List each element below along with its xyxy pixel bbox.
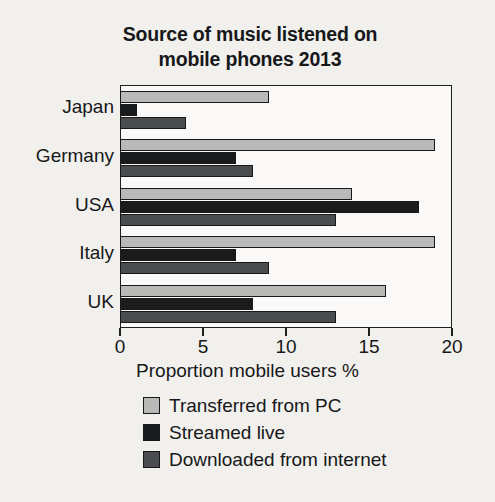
- chart-title: Source of music listened on mobile phone…: [60, 22, 440, 72]
- bar: [120, 139, 435, 151]
- axis-tick-label: 0: [115, 336, 126, 358]
- bar: [120, 236, 435, 248]
- category-label: Italy: [79, 242, 114, 264]
- category-label: USA: [75, 194, 114, 216]
- axis-tick: [119, 328, 121, 336]
- legend-item[interactable]: Downloaded from internet: [143, 446, 463, 473]
- legend-swatch-icon: [143, 424, 160, 441]
- axis-tick: [285, 328, 287, 336]
- category-label: UK: [88, 291, 114, 313]
- chart-title-line-1: Source of music listened on: [60, 22, 440, 47]
- bar: [120, 249, 236, 261]
- axis-tick: [368, 328, 370, 336]
- bar: [120, 165, 253, 177]
- x-axis-label: Proportion mobile users %: [0, 360, 495, 382]
- category-label: Japan: [62, 96, 114, 118]
- legend-label: Transferred from PC: [169, 395, 341, 417]
- bar: [120, 188, 352, 200]
- axis-tick: [202, 328, 204, 336]
- bar: [120, 214, 336, 226]
- chart-title-line-2: mobile phones 2013: [60, 47, 440, 72]
- bar: [120, 311, 336, 323]
- axis-tick-label: 10: [275, 336, 296, 358]
- chart-legend: Transferred from PCStreamed liveDownload…: [143, 392, 463, 473]
- bar: [120, 285, 386, 297]
- legend-item[interactable]: Transferred from PC: [143, 392, 463, 419]
- legend-label: Streamed live: [169, 422, 285, 444]
- legend-swatch-icon: [143, 397, 160, 414]
- bar-group: [120, 279, 452, 328]
- bar-group: [120, 134, 452, 183]
- bar: [120, 201, 419, 213]
- bar-chart-figure: Source of music listened on mobile phone…: [0, 0, 495, 502]
- bar-group: [120, 85, 452, 134]
- legend-label: Downloaded from internet: [169, 449, 387, 471]
- bar: [120, 262, 269, 274]
- category-label: Germany: [36, 145, 114, 167]
- legend-swatch-icon: [143, 451, 160, 468]
- axis-tick-label: 20: [441, 336, 462, 358]
- axis-tick: [451, 328, 453, 336]
- bar: [120, 117, 186, 129]
- axis-tick-label: 5: [198, 336, 209, 358]
- bar: [120, 91, 269, 103]
- bar: [120, 298, 253, 310]
- bar-group: [120, 231, 452, 280]
- bar: [120, 104, 137, 116]
- legend-item[interactable]: Streamed live: [143, 419, 463, 446]
- bar: [120, 152, 236, 164]
- bar-group: [120, 182, 452, 231]
- axis-tick-label: 15: [358, 336, 379, 358]
